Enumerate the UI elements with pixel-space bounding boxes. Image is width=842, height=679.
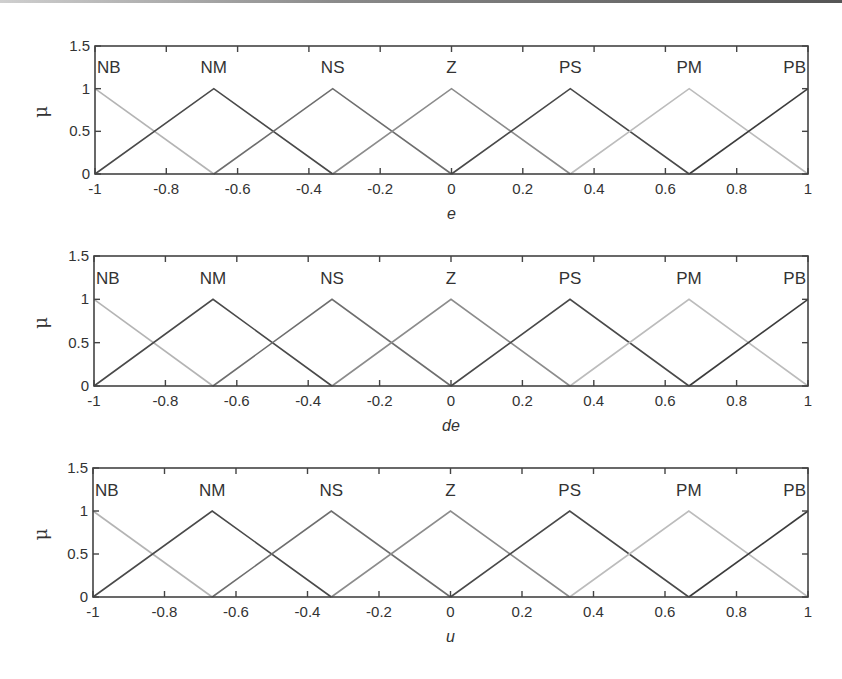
x-tick-label: 0.8 bbox=[726, 603, 747, 620]
y-tick-label: 0.5 bbox=[69, 122, 90, 139]
mf-label-ps: PS bbox=[559, 58, 582, 77]
x-tick-label: -1 bbox=[86, 603, 99, 620]
x-tick-label: -1 bbox=[87, 392, 100, 409]
y-tick-label: 0 bbox=[82, 165, 90, 182]
x-tick-label: 0.4 bbox=[583, 603, 604, 620]
series-line-ns bbox=[212, 511, 450, 597]
series-line-z bbox=[331, 511, 569, 597]
y-axis-label: μ bbox=[30, 528, 51, 540]
mf-label-pm: PM bbox=[676, 58, 702, 77]
series-line-nm bbox=[93, 511, 331, 597]
x-tick-label: -0.4 bbox=[295, 603, 321, 620]
mf-label-ps: PS bbox=[558, 481, 581, 500]
mf-label-ns: NS bbox=[321, 58, 345, 77]
x-tick-label: 0.2 bbox=[512, 603, 533, 620]
panel-de: -1-0.8-0.6-0.4-0.200.20.40.60.8100.511.5… bbox=[30, 247, 812, 434]
x-tick-label: 0.8 bbox=[726, 180, 747, 197]
x-tick-label: 1 bbox=[804, 180, 812, 197]
mf-label-nm: NM bbox=[199, 481, 225, 500]
mf-label-z: Z bbox=[446, 58, 456, 77]
mf-label-z: Z bbox=[446, 269, 456, 288]
y-tick-label: 0.5 bbox=[68, 334, 89, 351]
mf-label-pb: PB bbox=[783, 481, 806, 500]
mf-label-ns: NS bbox=[320, 269, 344, 288]
y-tick-label: 0 bbox=[80, 588, 88, 605]
x-axis-label: e bbox=[447, 205, 456, 222]
x-axis-label: u bbox=[446, 628, 455, 645]
x-tick-label: 0.4 bbox=[583, 392, 604, 409]
mf-label-nm: NM bbox=[200, 269, 226, 288]
mf-label-pm: PM bbox=[676, 481, 702, 500]
y-tick-label: 1 bbox=[80, 502, 88, 519]
x-tick-label: -0.8 bbox=[152, 392, 178, 409]
x-tick-label: 0.4 bbox=[584, 180, 605, 197]
series-line-ps bbox=[451, 299, 689, 386]
series-line-ps bbox=[451, 511, 689, 597]
x-tick-label: -0.4 bbox=[295, 392, 321, 409]
panel-e: -1-0.8-0.6-0.4-0.200.20.40.60.8100.511.5… bbox=[30, 37, 812, 222]
panel-u: -1-0.8-0.6-0.4-0.200.20.40.60.8100.511.5… bbox=[30, 459, 812, 645]
x-tick-label: 0.6 bbox=[655, 180, 676, 197]
mf-label-nb: NB bbox=[96, 269, 120, 288]
series-line-pm bbox=[570, 89, 808, 174]
mf-label-pb: PB bbox=[783, 58, 806, 77]
mf-label-ns: NS bbox=[320, 481, 344, 500]
series-line-ps bbox=[452, 89, 690, 174]
mf-label-nm: NM bbox=[201, 58, 227, 77]
y-tick-label: 1.5 bbox=[67, 459, 88, 476]
series-line-ns bbox=[213, 299, 451, 386]
y-axis-label: μ bbox=[30, 317, 51, 329]
mf-label-pb: PB bbox=[783, 269, 806, 288]
series-line-ns bbox=[214, 89, 452, 174]
x-axis-label: de bbox=[442, 417, 460, 434]
x-tick-label: 0 bbox=[446, 603, 454, 620]
y-tick-label: 0 bbox=[81, 377, 89, 394]
x-tick-label: -1 bbox=[88, 180, 101, 197]
series-line-pm bbox=[570, 511, 808, 597]
mf-label-z: Z bbox=[445, 481, 455, 500]
mf-label-pm: PM bbox=[676, 269, 702, 288]
x-tick-label: 0.6 bbox=[655, 392, 676, 409]
series-line-z bbox=[333, 89, 571, 174]
y-tick-label: 1.5 bbox=[68, 247, 89, 264]
y-tick-label: 0.5 bbox=[67, 545, 88, 562]
membership-function-figure: -1-0.8-0.6-0.4-0.200.20.40.60.8100.511.5… bbox=[0, 0, 842, 679]
x-tick-label: 1 bbox=[804, 392, 812, 409]
x-tick-label: -0.2 bbox=[367, 180, 393, 197]
mf-label-nb: NB bbox=[95, 481, 119, 500]
x-tick-label: -0.2 bbox=[367, 392, 393, 409]
y-axis-label: μ bbox=[30, 106, 51, 118]
y-tick-label: 1.5 bbox=[69, 37, 90, 54]
x-tick-label: -0.8 bbox=[153, 180, 179, 197]
x-tick-label: -0.6 bbox=[224, 392, 250, 409]
x-tick-label: 0.2 bbox=[512, 392, 533, 409]
series-line-pm bbox=[570, 299, 808, 386]
x-tick-label: -0.6 bbox=[225, 180, 251, 197]
x-tick-label: -0.2 bbox=[366, 603, 392, 620]
series-line-nm bbox=[95, 89, 333, 174]
x-tick-label: -0.8 bbox=[152, 603, 178, 620]
mf-label-nb: NB bbox=[97, 58, 121, 77]
x-tick-label: -0.4 bbox=[296, 180, 322, 197]
x-tick-label: 0 bbox=[447, 392, 455, 409]
x-tick-label: 1 bbox=[804, 603, 812, 620]
y-tick-label: 1 bbox=[82, 80, 90, 97]
x-tick-label: -0.6 bbox=[223, 603, 249, 620]
mf-label-ps: PS bbox=[559, 269, 582, 288]
series-line-nm bbox=[94, 299, 332, 386]
series-line-z bbox=[332, 299, 570, 386]
x-tick-label: 0.2 bbox=[512, 180, 533, 197]
x-tick-label: 0.8 bbox=[726, 392, 747, 409]
x-tick-label: 0 bbox=[447, 180, 455, 197]
x-tick-label: 0.6 bbox=[655, 603, 676, 620]
y-tick-label: 1 bbox=[81, 290, 89, 307]
